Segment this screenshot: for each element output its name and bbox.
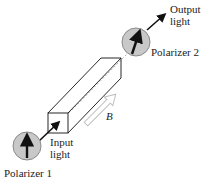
polarizer-1 <box>13 132 41 160</box>
polarizer-2-label: Polarizer 2 <box>151 46 199 58</box>
polarizer-1-label: Polarizer 1 <box>4 167 52 179</box>
magnetic-field-arrow <box>82 90 120 128</box>
output-light-arrow <box>147 15 164 30</box>
input-light-label: Input light <box>50 136 73 160</box>
field-label: B <box>106 110 113 122</box>
output-light-label: Output light <box>170 3 201 27</box>
polarizer-2 <box>122 28 150 56</box>
faraday-rotation-diagram <box>0 0 213 182</box>
